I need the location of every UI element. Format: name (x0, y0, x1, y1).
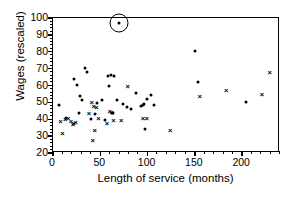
y-axis-minor-tick (50, 24, 53, 25)
y-axis-tick-label: 30 (36, 129, 48, 141)
data-point-dot (129, 108, 132, 111)
y-axis-minor-tick (50, 58, 53, 59)
x-axis-minor-tick (279, 151, 280, 154)
y-axis-minor-tick (50, 115, 53, 116)
x-axis-tick-label: 50 (93, 156, 105, 168)
data-point-dot (81, 98, 84, 101)
scatter-plot-figure: 2030405060708090100 050100150200 Length … (0, 0, 293, 199)
y-axis-minor-tick (50, 81, 53, 82)
x-axis-minor-tick (119, 151, 120, 154)
x-axis-minor-tick (223, 151, 224, 154)
data-point-dot (125, 105, 128, 108)
y-axis-minor-tick (50, 112, 53, 113)
x-axis-tick-label: 200 (232, 156, 250, 168)
y-axis-tick-label: 20 (36, 146, 48, 158)
x-axis-tick-label: 150 (185, 156, 203, 168)
y-axis-minor-tick (50, 88, 53, 89)
data-point-cross (72, 118, 79, 125)
data-point-dot (153, 103, 156, 106)
data-point-dot (196, 81, 199, 84)
x-axis-minor-tick (156, 151, 157, 154)
y-axis-minor-tick (50, 95, 53, 96)
x-axis-minor-tick (204, 151, 205, 154)
data-point-dot (72, 77, 75, 80)
y-axis-major-tick (48, 17, 53, 18)
x-axis-minor-tick (213, 151, 214, 154)
y-axis-major-tick (48, 68, 53, 69)
y-axis-tick-label: 60 (36, 79, 48, 91)
y-axis-minor-tick (50, 139, 53, 140)
data-point-cross (167, 127, 174, 134)
x-axis-minor-tick (62, 151, 63, 154)
y-axis-tick-label: 70 (36, 62, 48, 74)
x-axis-minor-tick (251, 151, 252, 154)
x-axis-minor-tick (128, 151, 129, 154)
y-axis-minor-tick (50, 48, 53, 49)
data-point-dot (145, 98, 148, 101)
data-point-dot (89, 118, 92, 121)
data-point-dot (79, 94, 82, 97)
y-axis-minor-tick (50, 65, 53, 66)
data-point-dot (193, 49, 196, 52)
y-axis-minor-tick (50, 146, 53, 147)
y-axis-minor-tick (50, 78, 53, 79)
x-axis-minor-tick (260, 151, 261, 154)
data-point-dot (77, 112, 80, 115)
y-axis-minor-tick (50, 44, 53, 45)
y-axis-major-tick (48, 85, 53, 86)
y-axis-major-tick (48, 51, 53, 52)
data-point-dot (75, 83, 78, 86)
y-axis-minor-tick (50, 31, 53, 32)
x-axis-minor-tick (90, 151, 91, 154)
data-point-cross (196, 92, 203, 99)
data-point-cross (93, 103, 100, 110)
data-point-dot (101, 98, 104, 101)
y-axis-major-tick (48, 34, 53, 35)
y-axis-minor-tick (50, 142, 53, 143)
data-point-cross (118, 117, 125, 124)
y-axis-minor-tick (50, 41, 53, 42)
y-axis-minor-tick (50, 92, 53, 93)
data-point-dot (86, 71, 89, 74)
data-point-dot (244, 100, 247, 103)
data-point-dot (57, 103, 60, 106)
y-axis-minor-tick (50, 125, 53, 126)
y-axis-tick-label: 40 (36, 112, 48, 124)
data-point-cross (143, 114, 150, 121)
data-point-dot (142, 103, 145, 106)
data-point-cross (259, 90, 266, 97)
data-point-dot (135, 92, 138, 95)
x-axis-minor-tick (166, 151, 167, 154)
data-point-dot (116, 98, 119, 101)
y-axis-minor-tick (50, 75, 53, 76)
marker-layer (53, 18, 278, 151)
y-axis-minor-tick (50, 129, 53, 130)
y-axis-major-tick (48, 119, 53, 120)
data-point-cross (124, 83, 131, 90)
x-axis-minor-tick (81, 151, 82, 154)
y-axis-minor-tick (50, 54, 53, 55)
x-axis-minor-tick (270, 151, 271, 154)
y-axis-title: Wages (rescaled) (14, 0, 26, 131)
y-axis-tick-label: 100 (30, 11, 48, 23)
y-axis-minor-tick (50, 27, 53, 28)
y-axis-minor-tick (50, 71, 53, 72)
y-axis-minor-tick (50, 132, 53, 133)
y-axis-minor-tick (50, 122, 53, 123)
y-axis-major-tick (48, 135, 53, 136)
data-point-dot (109, 73, 112, 76)
data-point-cross (85, 110, 92, 117)
y-axis-minor-tick (50, 98, 53, 99)
y-axis-minor-tick (50, 149, 53, 150)
y-axis-minor-tick (50, 61, 53, 62)
x-axis-minor-tick (137, 151, 138, 154)
y-axis-minor-tick (50, 21, 53, 22)
y-axis-minor-tick (50, 105, 53, 106)
data-point-cross (108, 108, 115, 115)
x-axis-minor-tick (71, 151, 72, 154)
data-point-dot (150, 93, 153, 96)
x-axis-tick-label: 0 (49, 156, 55, 168)
x-axis-tick-labels: 050100150200 (52, 156, 279, 170)
data-point-dot (113, 75, 116, 78)
data-point-dot (107, 84, 110, 87)
